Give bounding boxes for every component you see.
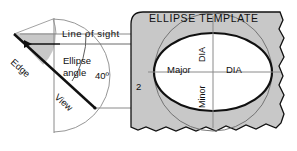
ellipse-angle-label-line1: Ellipse bbox=[63, 55, 91, 66]
minor-label: Minor bbox=[197, 85, 207, 108]
major-dia-label: DIA bbox=[197, 47, 207, 62]
edge-line-end-node bbox=[93, 106, 96, 109]
template-size-label: 2 bbox=[136, 81, 141, 92]
upper-fan-sector bbox=[14, 19, 56, 34]
angle-value-label: 40º bbox=[95, 70, 110, 81]
ellipse-template-diagram: ELLIPSE TEMPLATE 2 Major DIA Minor DIA L… bbox=[0, 0, 297, 151]
ellipse-angle-label-line2: angle bbox=[63, 67, 86, 78]
line-of-sight-label: Line of sight bbox=[62, 28, 120, 39]
right-dia-label: DIA bbox=[226, 64, 243, 75]
major-label: Major bbox=[167, 64, 191, 75]
diagram-canvas: ELLIPSE TEMPLATE 2 Major DIA Minor DIA L… bbox=[0, 0, 297, 151]
template-title: ELLIPSE TEMPLATE bbox=[149, 12, 259, 24]
